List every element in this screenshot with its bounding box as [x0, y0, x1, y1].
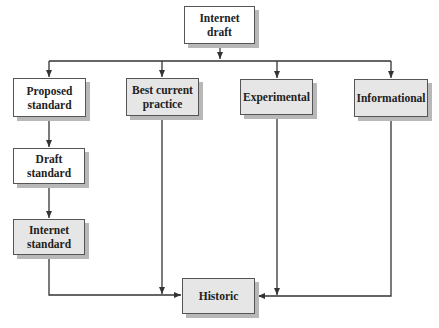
node-internet-standard: Internet standard	[13, 219, 85, 255]
node-label: Informational	[357, 91, 426, 105]
node-label: Experimental	[243, 90, 310, 104]
edge-informational-to-historic	[258, 120, 391, 296]
node-label: Internet draft	[187, 11, 252, 39]
node-informational: Informational	[354, 79, 428, 117]
node-label: Internet standard	[16, 223, 82, 251]
rfc-maturity-flowchart: Internet draft Proposed standard Best cu…	[0, 0, 439, 328]
node-label: Historic	[199, 289, 239, 303]
node-best-current-practice: Best current practice	[126, 78, 199, 116]
edge-internet-standard-to-historic	[49, 258, 181, 295]
node-experimental: Experimental	[240, 79, 313, 115]
node-label: Draft standard	[16, 152, 82, 180]
node-proposed-standard: Proposed standard	[13, 78, 86, 117]
node-draft-standard: Draft standard	[13, 148, 85, 184]
node-label: Proposed standard	[16, 84, 83, 112]
node-historic: Historic	[182, 278, 255, 314]
node-label: Best current practice	[129, 83, 196, 111]
node-internet-draft: Internet draft	[184, 6, 255, 44]
